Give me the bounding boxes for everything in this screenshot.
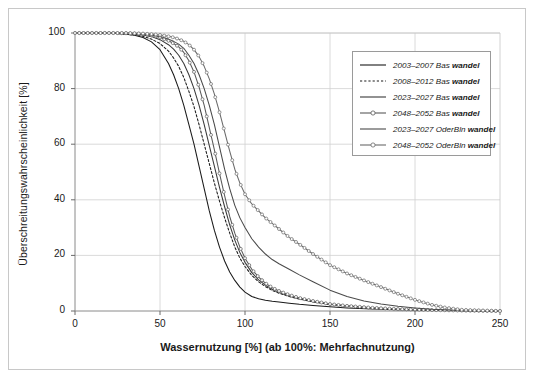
legend-item: 2048–2052 OderBln wandel: [353, 137, 490, 153]
legend-item: 2003–2007 Bas wandel: [353, 57, 490, 73]
chart-figure: 020406080100 050100150200250 Überschreit…: [0, 0, 534, 378]
legend-line-swatch: [358, 91, 388, 103]
legend-item: 2023–2027 OderBln wandel: [353, 121, 490, 137]
y-axis-tick-label: 100: [31, 26, 65, 37]
y-axis-tick-label: 40: [31, 193, 65, 204]
legend-label: 2023–2027 OderBln wandel: [388, 125, 495, 134]
legend-item: 2008–2012 Bas wandel: [353, 73, 490, 89]
y-axis-tick-label: 0: [31, 304, 65, 315]
x-axis-tick-label: 250: [480, 318, 520, 329]
x-axis-tick-label: 150: [310, 318, 350, 329]
legend-line-swatch: [358, 139, 388, 151]
legend-line-swatch: [358, 75, 388, 87]
x-axis-title: Wassernutzung [%] (ab 100%: Mehrfachnutz…: [75, 341, 500, 353]
y-axis-tick-label: 20: [31, 248, 65, 259]
legend: 2003–2007 Bas wandel2008–2012 Bas wandel…: [352, 51, 491, 156]
legend-label: 2048–2052 Bas wandel: [388, 109, 479, 118]
legend-label: 2008–2012 Bas wandel: [388, 77, 479, 86]
x-axis-tick-label: 50: [140, 318, 180, 329]
x-axis-tick-label: 100: [225, 318, 265, 329]
y-axis-title: Überschreitungswahrscheinlichkeit [%]: [17, 59, 29, 289]
legend-line-swatch: [358, 59, 388, 71]
legend-item: 2023–2027 Bas wandel: [353, 89, 490, 105]
legend-item: 2048–2052 Bas wandel: [353, 105, 490, 121]
legend-line-swatch: [358, 123, 388, 135]
x-axis-tick-label: 200: [395, 318, 435, 329]
legend-label: 2048–2052 OderBln wandel: [388, 141, 495, 150]
y-axis-tick-label: 80: [31, 82, 65, 93]
x-axis-tick-label: 0: [55, 318, 95, 329]
legend-label: 2003–2007 Bas wandel: [388, 61, 479, 70]
legend-line-swatch: [358, 107, 388, 119]
legend-label: 2023–2027 Bas wandel: [388, 93, 479, 102]
y-axis-tick-label: 60: [31, 137, 65, 148]
